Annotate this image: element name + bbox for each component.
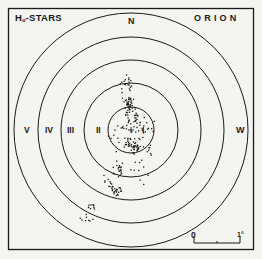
ring-label-v: V	[24, 125, 30, 135]
center-cross-icon	[128, 127, 134, 133]
chart-title: Hα-STARS	[15, 13, 62, 25]
ring-label-iv: IV	[45, 125, 53, 135]
scale-bar	[194, 236, 240, 243]
ring-label-iii: III	[67, 125, 74, 135]
chart-plot-area	[0, 0, 262, 259]
direction-west-label: W	[236, 125, 245, 135]
scale-end-label: 1°	[237, 230, 244, 240]
ring-label-i: I	[142, 125, 144, 135]
orion-halpha-star-chart: Hα-STARS ORION N W I II III IV V 0 1°	[0, 0, 262, 259]
direction-north-label: N	[128, 16, 135, 26]
constellation-label: ORION	[194, 13, 240, 23]
ring-label-ii: II	[96, 125, 101, 135]
scale-start-label: 0	[191, 230, 196, 240]
